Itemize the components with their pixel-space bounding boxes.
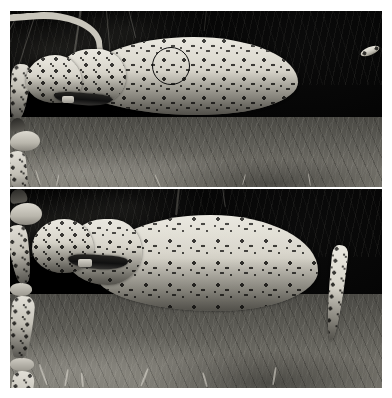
leopard-bottom [10, 189, 42, 388]
leopard-ear [10, 189, 28, 204]
collar-unit-icon [62, 96, 74, 103]
camera-trap-figure [0, 0, 392, 398]
leopard-hind-leg-far [10, 370, 35, 388]
twig-icon [175, 189, 180, 215]
leopard-ear [10, 117, 26, 133]
rosette-identification-circle [152, 47, 190, 85]
leopard-front-leg-far [10, 150, 31, 187]
twig-icon [106, 11, 110, 51]
leopard-muzzle [10, 131, 40, 151]
panel-top [10, 11, 382, 187]
collar-unit-icon [78, 259, 92, 267]
leopard-top [10, 11, 102, 187]
leopard-shading [10, 370, 35, 388]
twig-icon [128, 11, 136, 38]
leopard-muzzle [10, 203, 42, 225]
leopard-front-leg-far [10, 224, 34, 284]
twig-icon [222, 189, 226, 207]
leopard-shading [10, 224, 34, 284]
leopard-front-leg-near [10, 295, 36, 359]
panel-bottom [10, 189, 382, 388]
leopard-shading [10, 295, 36, 359]
leopard-paw [10, 283, 32, 296]
leopard-paw [10, 358, 34, 371]
leopard-shading [10, 150, 31, 187]
twig-icon [204, 11, 207, 31]
